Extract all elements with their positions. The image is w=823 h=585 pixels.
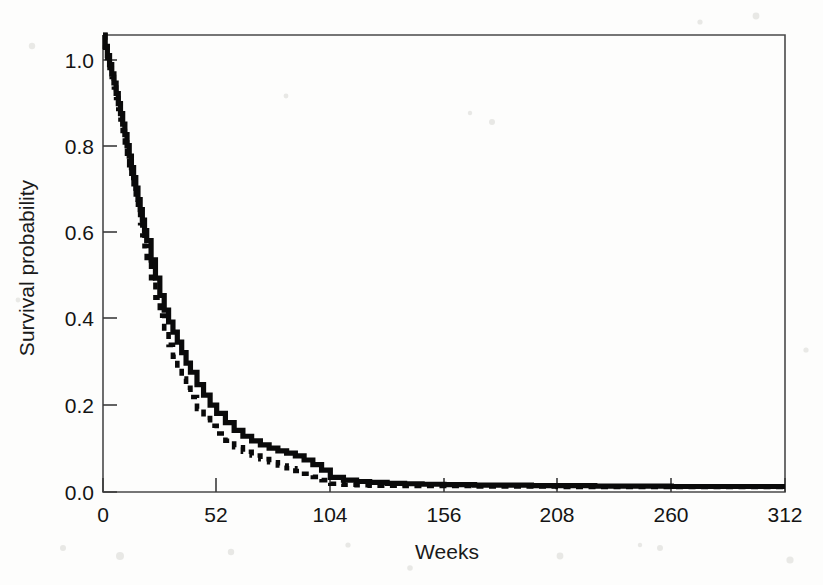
x-tick-label-260: 260 (653, 503, 688, 526)
x-tick-label-104: 104 (312, 503, 347, 526)
x-tick-label-312: 312 (767, 503, 802, 526)
figure-background (0, 0, 823, 585)
x-axis-title: Weeks (415, 540, 479, 563)
y-axis-title: Survival probability (15, 179, 38, 356)
y-tick-label-0.2: 0.2 (65, 394, 94, 417)
y-tick-label-0.4: 0.4 (65, 307, 95, 330)
y-tick-label-0.0: 0.0 (65, 481, 94, 504)
survival-plot-figure: 1.0 0.8 0.6 0.4 0.2 0.0 0 52 104 156 208… (0, 0, 823, 585)
y-tick-label-0.6: 0.6 (65, 221, 94, 244)
plot-canvas: 1.0 0.8 0.6 0.4 0.2 0.0 0 52 104 156 208… (0, 0, 823, 585)
x-tick-label-208: 208 (539, 503, 574, 526)
x-tick-label-0: 0 (97, 503, 109, 526)
x-tick-label-156: 156 (426, 503, 461, 526)
y-tick-label-0.8: 0.8 (65, 135, 94, 158)
x-tick-label-52: 52 (204, 503, 227, 526)
y-tick-label-1.0: 1.0 (65, 49, 94, 72)
